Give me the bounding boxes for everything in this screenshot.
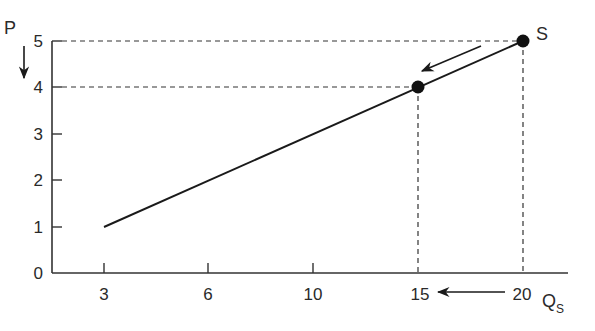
- y-tick-label: 3: [34, 125, 43, 144]
- y-tick-label: 0: [34, 264, 43, 283]
- y-axis-label: P: [4, 18, 16, 38]
- y-ticks: 5 4 3 2 1 0: [34, 32, 62, 283]
- supply-chart: 5 4 3 2 1 0 3 6 10 15 20 S P QS: [0, 0, 595, 331]
- x-tick-label: 20: [513, 285, 532, 304]
- y-tick-label: 1: [34, 218, 43, 237]
- y-tick-label: 2: [34, 171, 43, 190]
- supply-curve: [104, 41, 523, 227]
- axes: [52, 41, 568, 273]
- x-tick-label: 3: [99, 285, 108, 304]
- x-ticks: 3 6 10 15 20: [99, 263, 531, 304]
- data-point: [517, 35, 530, 48]
- supply-label: S: [536, 24, 548, 44]
- movement-arrow-icon: [422, 46, 481, 71]
- x-axis-label: QS: [542, 291, 564, 316]
- data-point: [412, 81, 425, 94]
- x-tick-label: 6: [203, 285, 212, 304]
- dashed-guides: [62, 41, 523, 273]
- y-tick-label: 4: [34, 78, 43, 97]
- x-tick-label: 10: [304, 285, 323, 304]
- x-tick-label: 15: [411, 285, 430, 304]
- y-tick-label: 5: [34, 32, 43, 51]
